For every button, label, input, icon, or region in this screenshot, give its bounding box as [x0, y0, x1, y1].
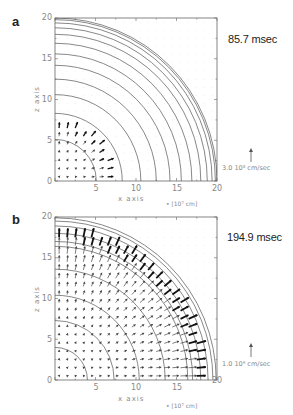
x-tick: 10	[129, 383, 143, 392]
plot-area	[55, 217, 218, 381]
x-tick: 5	[89, 383, 103, 392]
x-axis-title: x axis	[118, 395, 144, 403]
y-tick: 5	[38, 335, 52, 344]
x-tick: 5	[89, 184, 103, 193]
y-tick: 15	[38, 253, 52, 262]
x-tick: 15	[170, 383, 184, 392]
y-tick: 0	[38, 177, 52, 186]
y-tick: 20	[38, 13, 52, 22]
x-tick: 20	[210, 376, 224, 385]
y-axis-title: z axis	[33, 86, 41, 112]
x-tick: 10	[129, 184, 143, 193]
plot-area	[55, 18, 218, 182]
panel-label: a	[12, 14, 19, 29]
time-label: 85.7 msec	[228, 33, 277, 45]
velocity-scale-arrow-icon	[248, 343, 254, 357]
time-label: 194.9 msec	[227, 231, 282, 243]
y-tick: 20	[38, 212, 52, 221]
unit-label: • [10⁷ cm]	[166, 402, 197, 409]
panel-b: b 20 15 10 5 0 5 10 15 20 x axis z axis …	[0, 200, 293, 407]
y-tick: 0	[38, 376, 52, 385]
velocity-scale-label: 3.0 10⁸ cm/sec	[222, 164, 270, 172]
panel-a: a 20 15 10 5 0 5 10 15 20 x axis z axis …	[0, 0, 293, 207]
velocity-scale-arrow-icon	[248, 148, 254, 162]
y-tick: 5	[38, 136, 52, 145]
panel-label: b	[12, 212, 20, 227]
x-tick: 15	[170, 184, 184, 193]
x-tick: 20	[210, 184, 224, 193]
velocity-scale-label: 1.0 10⁹ cm/sec	[222, 360, 270, 368]
y-tick: 15	[38, 54, 52, 63]
y-axis-title: z axis	[33, 286, 41, 312]
